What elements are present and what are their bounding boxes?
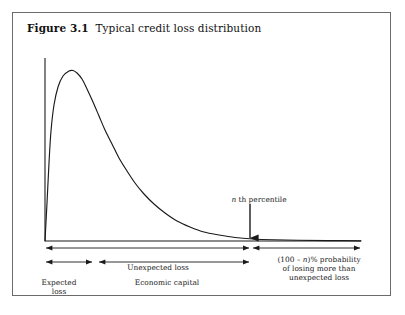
expected-loss-line-2: loss (52, 287, 66, 296)
loss-distribution-curve (45, 70, 361, 241)
percentile-label: n th percentile (219, 195, 299, 204)
tail-line-2: of losing more than (283, 264, 356, 273)
percentile-text: th percentile (239, 195, 287, 204)
tail-probability-label: (100 – n)% probability of losing more th… (261, 255, 377, 283)
expected-loss-line-1: Expected (42, 278, 77, 287)
figure-frame: Figure 3.1 Typical credit loss distribut… (12, 12, 391, 296)
percentile-variable: n (231, 195, 236, 204)
tail-line-1: (100 – n)% probability (277, 255, 360, 264)
unexpected-loss-label: Unexpected loss (103, 263, 213, 272)
tail-line-3: unexpected loss (289, 273, 349, 282)
economic-capital-label: Economic capital (117, 278, 217, 287)
expected-loss-label: Expected loss (29, 278, 89, 296)
